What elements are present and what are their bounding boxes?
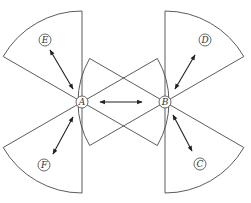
node-d: D (199, 34, 211, 46)
sector-b-lower-right (165, 102, 244, 193)
node-label: D (200, 35, 208, 45)
double-arrow-icon (173, 115, 192, 151)
node-label: C (197, 159, 204, 169)
sector-diagram: ABCDEF (0, 0, 251, 203)
double-arrow-icon (175, 55, 195, 89)
sector-a-lower-left (3, 102, 82, 193)
node-label: E (41, 35, 49, 45)
node-f: F (38, 159, 50, 171)
double-arrow-icon (53, 117, 73, 154)
node-label: F (40, 160, 48, 170)
sector-a-upper-left (3, 11, 82, 102)
node-e: E (39, 34, 51, 46)
link-arrows (50, 50, 195, 154)
node-label: B (161, 97, 169, 107)
double-arrow-icon (50, 50, 73, 89)
node-b: B (159, 96, 171, 108)
node-c: C (194, 158, 206, 170)
node-label: A (78, 97, 86, 107)
sector-b-upper-right (165, 11, 244, 102)
node-a: A (76, 96, 88, 108)
